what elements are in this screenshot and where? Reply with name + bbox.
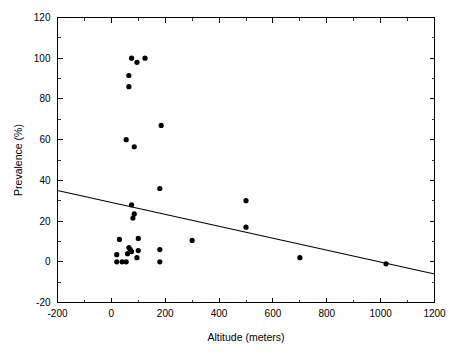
data-point: [243, 198, 248, 203]
data-point: [136, 236, 141, 241]
data-point: [126, 73, 131, 78]
x-axis-tick-label: 1000: [370, 308, 393, 319]
data-point: [126, 84, 131, 89]
x-axis-title: Altitude (meters): [207, 331, 284, 343]
y-axis-tick-label: 120: [34, 12, 51, 23]
data-point: [157, 259, 162, 264]
data-point: [132, 144, 137, 149]
data-point: [117, 237, 122, 242]
x-axis-tick-label: 200: [157, 308, 174, 319]
x-axis-tick-label: 600: [265, 308, 282, 319]
data-point: [124, 259, 129, 264]
y-axis-tick-label: 40: [39, 175, 51, 186]
data-point: [134, 255, 139, 260]
data-point: [142, 56, 147, 61]
data-point: [383, 261, 388, 266]
y-axis-tick-label: 0: [45, 256, 51, 267]
data-point: [190, 238, 195, 243]
x-axis-tick-label: 1200: [423, 308, 446, 319]
data-point: [130, 215, 135, 220]
x-axis-tick-label: 0: [109, 308, 115, 319]
y-axis-tick-label: 60: [39, 134, 51, 145]
data-point: [125, 251, 130, 256]
data-point: [157, 186, 162, 191]
data-point: [297, 255, 302, 260]
y-axis-tick-label: 100: [34, 53, 51, 64]
data-point: [124, 137, 129, 142]
plot-frame: [58, 18, 435, 303]
data-point: [114, 259, 119, 264]
y-axis-title: Prevalence (%): [12, 124, 24, 196]
data-point: [157, 247, 162, 252]
plot-canvas: -200020040060080010001200-20020406080100…: [0, 0, 461, 356]
data-point: [134, 60, 139, 65]
x-axis-tick-label: -200: [47, 308, 67, 319]
x-axis-tick-label: 400: [211, 308, 228, 319]
y-axis-tick-label: 20: [39, 216, 51, 227]
scatter-plot-figure: -200020040060080010001200-20020406080100…: [0, 0, 461, 356]
data-point: [159, 123, 164, 128]
y-axis-tick-label: 80: [39, 93, 51, 104]
data-point: [129, 202, 134, 207]
data-point: [114, 252, 119, 257]
data-point: [136, 248, 141, 253]
y-axis-tick-label: -20: [36, 297, 51, 308]
data-point: [243, 225, 248, 230]
data-point: [129, 56, 134, 61]
x-axis-tick-label: 800: [318, 308, 335, 319]
